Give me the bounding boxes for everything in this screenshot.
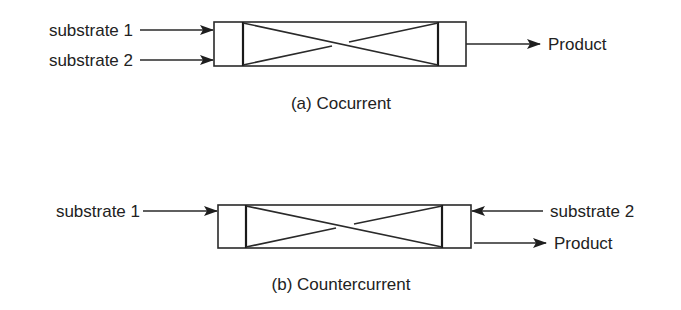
cocurrent-substrate-1-label: substrate 1 [49, 21, 133, 40]
countercurrent-reactor-column [218, 205, 471, 248]
countercurrent-substrate-2-label: substrate 2 [550, 202, 634, 221]
cocurrent-diagram: substrate 1 substrate 2 Product (a) Cocu… [49, 21, 607, 113]
countercurrent-diagram: substrate 1 substrate 2 Product (b) Coun… [56, 202, 634, 294]
countercurrent-product-label: Product [554, 234, 613, 253]
countercurrent-caption: (b) Countercurrent [272, 275, 411, 294]
cocurrent-substrate-2-label: substrate 2 [49, 51, 133, 70]
cocurrent-caption: (a) Cocurrent [291, 94, 391, 113]
cocurrent-product-label: Product [548, 35, 607, 54]
countercurrent-substrate-1-label: substrate 1 [56, 202, 140, 221]
cocurrent-reactor-column [214, 22, 466, 66]
reactor-flow-diagram: substrate 1 substrate 2 Product (a) Cocu… [0, 0, 681, 310]
